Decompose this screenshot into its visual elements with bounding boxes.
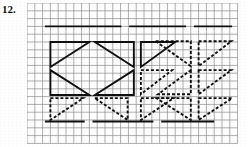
worksheet-page: 12. <box>0 0 248 147</box>
triangle-r2c4 <box>158 70 191 94</box>
figure-svg <box>27 3 243 144</box>
triangle-r1c2 <box>95 42 134 67</box>
triangle-r2c1 <box>50 70 89 95</box>
triangle-r3c2 <box>95 98 128 120</box>
triangle-r3c5 <box>199 98 233 120</box>
triangles-group <box>50 41 232 120</box>
triangle-r3c3 <box>141 98 174 120</box>
graph-paper-figure <box>27 3 243 144</box>
triangle-r2c5 <box>199 70 232 94</box>
triangle-r3c1 <box>50 98 83 120</box>
triangle-r1c5 <box>199 41 232 66</box>
triangle-r1c4 <box>156 41 191 66</box>
triangle-r3c4 <box>156 98 190 120</box>
triangle-r2c2 <box>95 70 134 95</box>
triangle-r1c3 <box>141 42 175 67</box>
problem-number-label: 12. <box>2 3 16 15</box>
triangle-r1c1 <box>50 42 89 67</box>
